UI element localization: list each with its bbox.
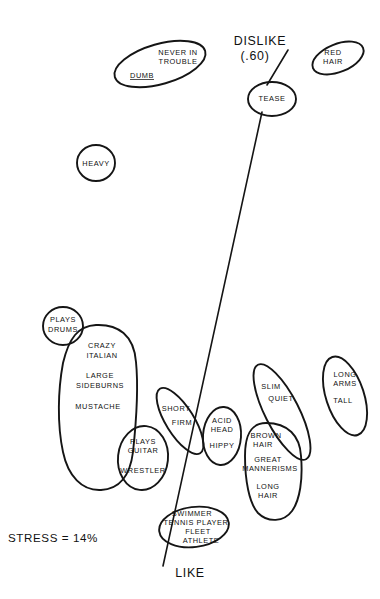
item-label: LARGE [86,371,114,380]
item-label: DRUMS [48,325,78,334]
item-label: CRAZY [88,341,116,350]
item-label: DUMB [130,71,154,80]
axis-loading-dislike: (.60) [241,49,270,63]
item-label: HAIR [258,491,278,500]
item-label: WRESTLER [120,466,165,475]
item-label: SLIM [261,382,280,391]
item-label: SHORT [162,404,190,413]
item-label: HAIR [323,57,343,66]
axis-label-like: LIKE [175,566,205,580]
item-label: TALL [333,396,352,405]
item-label: TENNIS PLAYER [164,518,229,527]
item-label: PLAYS [50,315,76,324]
item-label: HIPPY [210,441,235,450]
cluster-outline-slim-quiet [243,357,321,467]
item-label: SIDEBURNS [76,381,124,390]
item-label: LONG [333,370,356,379]
item-label: HAIR [253,440,273,449]
item-label: FLEET [185,527,211,536]
cluster-item-labels: NEVER IN TROUBLE DUMB RED HAIR TEASE HEA… [48,48,357,545]
item-label: GUITAR [128,446,159,455]
axis-label-dislike: DISLIKE [234,34,286,48]
item-label: ATHLETE [183,536,220,545]
item-label: HEAVY [82,159,109,168]
item-label: SWIMMER [172,509,212,518]
item-label: GREAT [254,455,282,464]
mds-plot-figure: NEVER IN TROUBLE DUMB RED HAIR TEASE HEA… [0,0,380,599]
axis-segment-main [163,112,262,566]
mds-canvas: NEVER IN TROUBLE DUMB RED HAIR TEASE HEA… [0,0,380,599]
item-label: MUSTACHE [75,402,120,411]
item-label: ARMS [333,379,357,388]
item-label: NEVER IN [158,48,197,57]
item-label: TEASE [259,94,286,103]
item-label: RED [324,48,341,57]
item-label: ITALIAN [86,351,117,360]
item-label: ACID [212,416,232,425]
cluster-outline-acid-head-hippy [201,406,243,467]
item-label: PLAYS [130,437,156,446]
item-label: BROWN [250,431,281,440]
item-label: FIRM [172,418,192,427]
item-label: QUIET [268,394,293,403]
item-label: HEAD [211,425,234,434]
cluster-outline-plays-guitar-wrestler [115,424,171,493]
item-label: MANNERISMS [242,464,298,473]
item-label: LONG [256,482,279,491]
item-label: TROUBLE [159,57,198,66]
axis-segment-upper [267,50,288,85]
stress-label: STRESS = 14% [8,531,98,544]
